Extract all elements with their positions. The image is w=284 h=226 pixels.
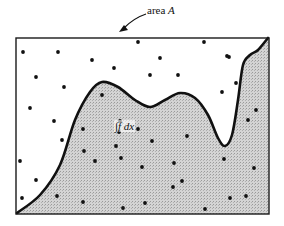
sample-dot [150,139,154,143]
sample-dot [225,54,229,58]
sample-dot [143,201,147,205]
sample-dot [203,207,207,211]
sample-dot [246,118,250,122]
sample-dot [136,40,140,44]
sample-dot [34,75,38,79]
sample-dot [119,156,123,160]
integral-label: ∫f dx [114,120,135,132]
sample-dot [202,40,206,44]
sample-dot [34,178,38,182]
sample-dot [18,159,22,163]
sample-dot [180,179,184,183]
sample-dot [121,206,125,210]
sample-dot [148,73,152,77]
sample-dot [220,90,224,94]
sample-dot [20,196,24,200]
sample-dot [140,165,144,169]
area-integral-diagram [0,0,284,226]
sample-dot [82,149,86,153]
area-label: area A [147,4,175,16]
sample-dot [176,73,180,77]
sample-dot [100,93,104,97]
sample-dot [228,196,232,200]
sample-dot [55,194,59,198]
sample-dot [244,194,248,198]
sample-dot [52,119,56,123]
sample-dot [252,166,256,170]
sample-dot [114,144,118,148]
sample-dot [112,66,116,70]
sample-dot [28,106,32,110]
sample-dot [93,159,97,163]
sample-dot [234,81,238,85]
sample-dot [136,127,140,131]
sample-dot [21,50,25,54]
sample-dot [158,56,162,60]
sample-dot [254,108,258,112]
sample-dot [90,58,94,62]
pointer-arrow-icon [119,14,146,32]
area-label-variable: A [168,4,175,16]
sample-dot [172,161,176,165]
sample-dot [185,134,189,138]
sample-dot [81,200,85,204]
sample-dot [222,157,226,161]
sample-dot [56,50,60,54]
sample-dot [81,127,85,131]
sample-dot [60,138,64,142]
sample-dot [171,185,175,189]
sample-dot [62,85,66,89]
area-label-text: area [147,4,165,16]
